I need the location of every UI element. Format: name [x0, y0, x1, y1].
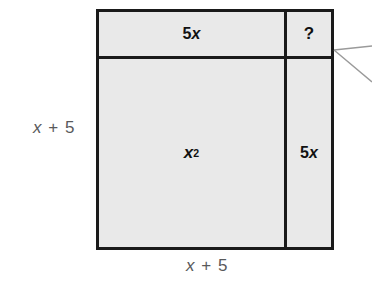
cell-right-label: 5x [287, 59, 331, 247]
figure-canvas: 5x ? x2 5x x + 5 x + 5 [0, 0, 372, 296]
cell-top-right-label: ? [287, 12, 331, 56]
cell-top-left-5x: 5x [99, 12, 284, 56]
cell-top-left-label: 5x [99, 12, 284, 56]
vertical-divider-line [284, 12, 287, 247]
area-model-square: 5x ? x2 5x [96, 9, 334, 250]
cell-top-right-unknown: ? [287, 12, 331, 56]
dimension-label-left: x + 5 [33, 118, 75, 138]
horizontal-divider-line [99, 56, 331, 59]
dimension-label-bottom: x + 5 [186, 256, 228, 276]
callout-leader-lines [330, 36, 372, 92]
cell-right-5x: 5x [287, 59, 331, 247]
cell-main-x-squared: x2 [99, 59, 284, 247]
cell-main-label: x2 [99, 59, 284, 247]
